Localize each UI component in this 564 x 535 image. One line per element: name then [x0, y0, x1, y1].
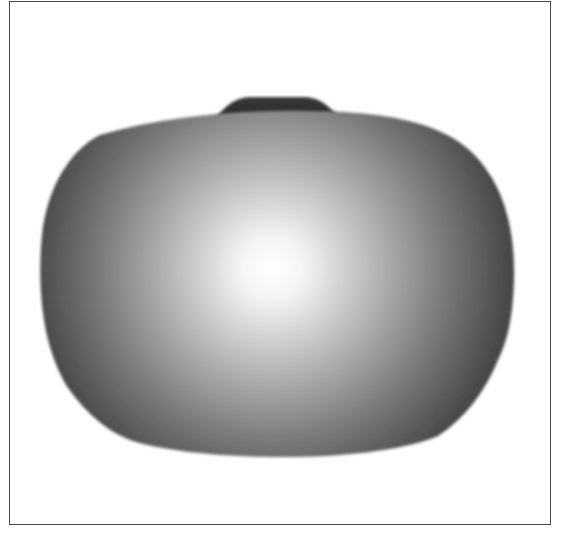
- shaded-blob-render: [0, 0, 564, 535]
- blob-body: [40, 111, 514, 457]
- figure-canvas: [0, 0, 564, 535]
